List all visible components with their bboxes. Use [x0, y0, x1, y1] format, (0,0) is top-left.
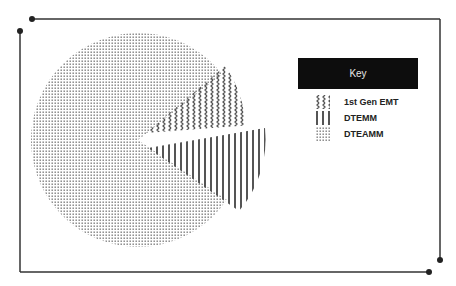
pie-chart	[0, 0, 456, 286]
legend-item-1st-gen-emt: 1st Gen EMT	[316, 94, 399, 110]
dots-pattern-icon	[316, 127, 330, 141]
legend-label: DTEMM	[344, 113, 377, 123]
zigzag-pattern-icon	[316, 95, 330, 109]
legend-label: 1st Gen EMT	[344, 97, 399, 107]
legend-label: DTEAMM	[344, 129, 384, 139]
legend-title: Key	[298, 58, 418, 89]
legend-item-dteamm: DTEAMM	[316, 126, 399, 142]
legend-item-dtemm: DTEMM	[316, 110, 399, 126]
vertical-lines-pattern-icon	[316, 111, 330, 125]
legend: 1st Gen EMT DTEMM DTEAMM	[316, 94, 399, 142]
